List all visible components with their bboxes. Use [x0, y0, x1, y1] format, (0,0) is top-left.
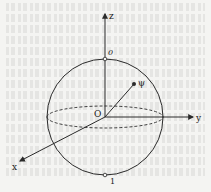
origin-label: O [94, 109, 101, 119]
x-axis [20, 117, 105, 161]
state-point [132, 82, 136, 86]
x-axis-label: x [12, 162, 17, 172]
state-vector [105, 84, 134, 117]
state-vector-label: ψ [138, 78, 145, 88]
equator-front [47, 117, 163, 128]
north-pole-point [103, 57, 107, 61]
south-pole-point [103, 173, 107, 177]
z-axis-label: z [109, 11, 114, 21]
south-pole-label: 1 [110, 177, 115, 186]
north-pole-label: 0 [108, 48, 113, 57]
y-axis-label: y [195, 113, 202, 123]
bloch-sphere-diagram: z y x O ψ 0 1 [0, 0, 211, 192]
